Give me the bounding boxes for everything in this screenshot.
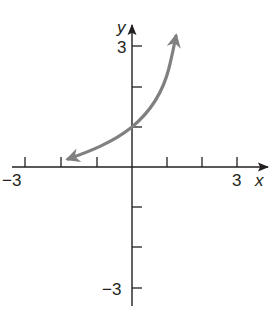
y-axis-label: y bbox=[116, 18, 127, 37]
y-tick-label-pos: 3 bbox=[117, 38, 126, 57]
x-axis-label: x bbox=[254, 171, 264, 190]
function-graph: y 3 −3 3 x −3 bbox=[0, 0, 277, 316]
x-ticks bbox=[25, 157, 237, 167]
x-tick-label-pos: 3 bbox=[232, 171, 241, 190]
x-tick-label-neg: −3 bbox=[2, 171, 21, 190]
y-tick-label-neg: −3 bbox=[102, 280, 121, 299]
